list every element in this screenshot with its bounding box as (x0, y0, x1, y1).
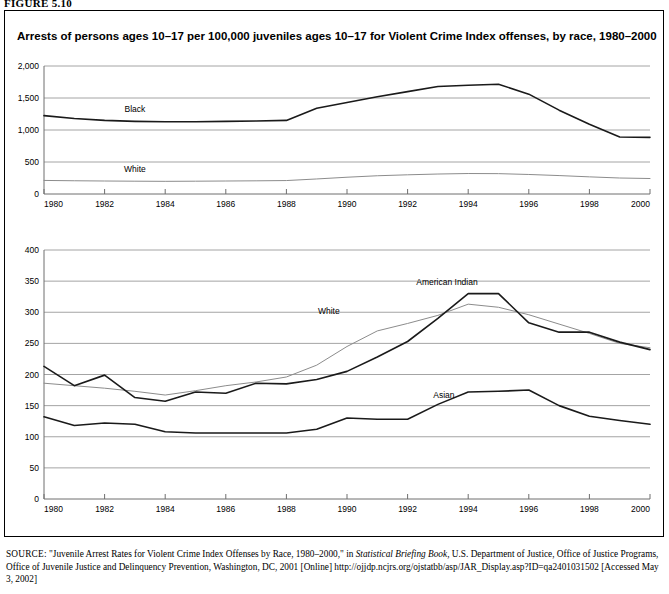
x-tick-label: 1982 (95, 504, 114, 514)
x-tick-label: 1992 (398, 504, 417, 514)
x-tick-label: 1996 (519, 199, 538, 209)
line-chart-top: 05001,0001,5002,000198019821984198619881… (44, 66, 650, 212)
x-tick-label: 1998 (580, 504, 599, 514)
x-tick-label: 1988 (277, 504, 296, 514)
x-tick-label: 1984 (156, 504, 175, 514)
x-tick-label: 2000 (631, 504, 650, 514)
x-tick-label: 1984 (156, 199, 175, 209)
x-tick-label: 1986 (216, 199, 235, 209)
series-line-asian (44, 390, 650, 433)
source-text-1: "Juvenile Arrest Rates for Violent Crime… (47, 549, 356, 559)
x-tick-label: 1992 (398, 199, 417, 209)
y-tick-label: 300 (25, 307, 39, 317)
y-tick-label: 100 (25, 432, 39, 442)
figure-page: FIGURE 5.10 Arrests of persons ages 10–1… (0, 0, 669, 594)
y-tick-label: 500 (25, 157, 39, 167)
series-line-white (44, 174, 650, 182)
chart-title: Arrests of persons ages 10–17 per 100,00… (17, 29, 657, 43)
y-tick-label: 2,000 (18, 61, 40, 71)
x-tick-label: 1980 (44, 504, 63, 514)
x-tick-label: 1994 (459, 504, 478, 514)
y-tick-label: 0 (34, 494, 39, 504)
y-tick-label: 350 (25, 276, 39, 286)
y-tick-label: 1,500 (18, 93, 40, 103)
y-tick-label: 150 (25, 401, 39, 411)
source-italic-1: Statistical Briefing Book, (356, 549, 450, 559)
y-tick-label: 400 (25, 245, 39, 255)
x-tick-label: 1996 (519, 504, 538, 514)
figure-number: FIGURE 5.10 (4, 0, 72, 9)
x-tick-label: 1990 (338, 504, 357, 514)
series-label-asian: Asian (433, 390, 455, 400)
x-tick-label: 2000 (631, 199, 650, 209)
source-note: SOURCE: "Juvenile Arrest Rates for Viole… (6, 548, 662, 586)
y-tick-label: 1,000 (18, 125, 40, 135)
x-tick-label: 1980 (44, 199, 63, 209)
y-tick-label: 250 (25, 338, 39, 348)
series-label-white: White (124, 164, 146, 174)
source-prefix: SOURCE: (6, 549, 47, 559)
series-label-white: White (318, 306, 340, 316)
x-tick-label: 1982 (95, 199, 114, 209)
x-tick-label: 1994 (459, 199, 478, 209)
x-tick-label: 1990 (338, 199, 357, 209)
series-label-black: Black (125, 104, 147, 114)
series-label-american-indian: American Indian (416, 277, 478, 287)
y-tick-label: 0 (34, 189, 39, 199)
series-line-white (44, 304, 650, 395)
y-tick-label: 50 (30, 463, 40, 473)
line-chart-bottom: 0501001502002503003504001980198219841986… (44, 250, 650, 517)
x-tick-label: 1988 (277, 199, 296, 209)
series-line-american-indian (44, 294, 650, 402)
x-tick-label: 1998 (580, 199, 599, 209)
x-tick-label: 1986 (216, 504, 235, 514)
chart-panel-top: 05001,0001,5002,000198019821984198619881… (44, 66, 650, 212)
chart-panel-bottom: 0501001502002503003504001980198219841986… (44, 250, 650, 517)
y-tick-label: 200 (25, 370, 39, 380)
